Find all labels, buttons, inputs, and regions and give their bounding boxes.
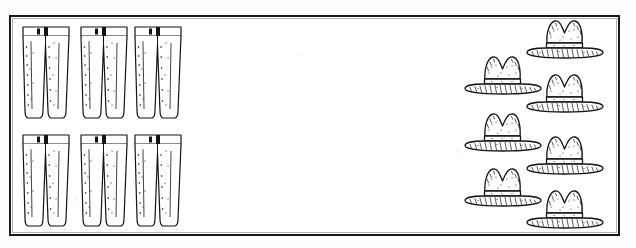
hats-count-value: 7: [0, 0, 1, 1]
pair-of-pants-3: [131, 23, 185, 123]
pants-count-value: 6: [0, 0, 1, 1]
pair-of-pants-2: [77, 23, 131, 123]
pair-of-pants-1: [19, 23, 73, 123]
image-border-frame: [9, 15, 620, 236]
pair-of-pants-4: [19, 131, 73, 231]
hats-group: [458, 17, 618, 234]
cowboy-hat-7: [524, 187, 606, 231]
pair-of-pants-5: [77, 131, 131, 231]
cowboy-hat-3: [524, 71, 606, 115]
image-title: Counting worksheet: pants and hats: [0, 0, 1, 1]
pants-group: [13, 19, 195, 234]
pair-of-pants-6: [131, 131, 185, 231]
worksheet-image: 6 7 Counting worksheet: pants and hats: [0, 0, 636, 248]
